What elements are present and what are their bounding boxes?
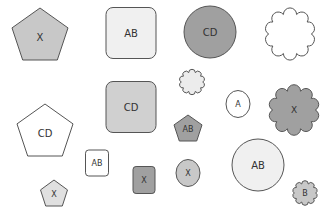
rounded-rect-shape: X	[133, 167, 155, 194]
shape-label: AB	[92, 159, 103, 168]
diagram-canvas: XABCDCDCDAXABABXXXABB	[0, 0, 332, 217]
shape-label: AB	[183, 125, 194, 134]
cloud-shape: X	[269, 85, 318, 136]
cloud-shape: B	[293, 181, 317, 206]
cloud-body	[180, 69, 205, 94]
shape-label: X	[185, 169, 191, 178]
pentagon-shape: X	[12, 8, 68, 60]
shape-label: X	[141, 176, 147, 185]
circle-shape: A	[226, 91, 250, 118]
shape-label: CD	[203, 27, 218, 38]
pentagon-shape: AB	[174, 115, 202, 141]
pentagon-shape: X	[41, 180, 68, 206]
shape-label: X	[37, 32, 44, 43]
shape-label: CD	[38, 128, 53, 139]
rounded-rect-shape: AB	[86, 150, 109, 176]
circle-shape: X	[176, 160, 200, 187]
shape-label: CD	[124, 102, 139, 113]
shape-label: X	[291, 105, 297, 115]
shape-label: AB	[124, 28, 138, 39]
shape-label: X	[51, 190, 57, 199]
shape-label: A	[235, 100, 241, 109]
shape-label: B	[302, 189, 308, 198]
cloud-shape	[180, 69, 205, 94]
rounded-rect-shape: AB	[106, 8, 156, 59]
cloud-shape	[266, 8, 315, 60]
shape-label: AB	[251, 160, 265, 171]
cloud-body	[266, 8, 315, 60]
rounded-rect-shape: CD	[106, 82, 156, 133]
pentagon-shape: CD	[17, 104, 73, 156]
circle-shape: AB	[232, 139, 284, 191]
circle-shape: CD	[184, 6, 236, 58]
